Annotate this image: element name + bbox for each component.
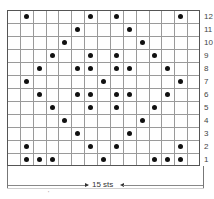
row-label: 12 xyxy=(204,13,213,21)
dot-symbol xyxy=(127,27,132,32)
dot-symbol xyxy=(24,79,29,84)
dot-symbol xyxy=(50,157,55,162)
dot-symbol xyxy=(152,157,157,162)
dot-symbol xyxy=(178,144,183,149)
knitting-chart: 121110987654321 15 sts ' xyxy=(0,0,214,199)
grid-row-line xyxy=(8,140,199,141)
dot-symbol xyxy=(178,14,183,19)
dot-symbol xyxy=(88,92,93,97)
dot-symbol xyxy=(165,66,170,71)
dot-symbol xyxy=(88,144,93,149)
row-label: 1 xyxy=(204,156,208,164)
dot-symbol xyxy=(152,105,157,110)
row-label: 9 xyxy=(204,52,208,60)
row-label: 2 xyxy=(204,143,208,151)
row-label: 5 xyxy=(204,104,208,112)
row-label: 11 xyxy=(204,26,212,34)
dot-symbol xyxy=(178,157,183,162)
dot-symbol xyxy=(88,14,93,19)
row-label: 3 xyxy=(204,130,208,138)
width-arrow-right-line xyxy=(123,185,203,186)
width-arrow-left-line xyxy=(8,185,88,186)
row-label: 8 xyxy=(204,65,208,73)
dot-symbol xyxy=(75,27,80,32)
dot-symbol xyxy=(114,92,119,97)
dot-symbol xyxy=(50,105,55,110)
dot-symbol xyxy=(37,157,42,162)
grid-row-line xyxy=(8,114,199,115)
dot-symbol xyxy=(62,118,67,123)
row-label: 6 xyxy=(204,91,208,99)
dot-symbol xyxy=(101,157,106,162)
row-label: 4 xyxy=(204,117,208,125)
dot-symbol xyxy=(114,66,119,71)
footnote-mark: ' xyxy=(48,190,49,196)
dot-symbol xyxy=(75,66,80,71)
dot-symbol xyxy=(152,53,157,58)
grid-row-line xyxy=(8,49,199,50)
dot-symbol xyxy=(127,66,132,71)
dot-symbol xyxy=(114,144,119,149)
dot-symbol xyxy=(178,79,183,84)
dot-symbol xyxy=(24,157,29,162)
grid-row-line xyxy=(8,23,199,24)
dot-symbol xyxy=(165,157,170,162)
grid-row-line xyxy=(8,127,199,128)
grid-row-line xyxy=(8,62,199,63)
dot-symbol xyxy=(50,53,55,58)
dot-symbol xyxy=(75,131,80,136)
grid-row-line xyxy=(8,36,199,37)
grid-row-line xyxy=(8,88,199,89)
dot-symbol xyxy=(24,144,29,149)
dot-symbol xyxy=(88,66,93,71)
dot-symbol xyxy=(88,105,93,110)
width-label: 15 sts xyxy=(92,180,113,190)
bracket-right xyxy=(203,166,204,188)
dot-symbol xyxy=(114,105,119,110)
chart-grid xyxy=(7,10,200,166)
dot-symbol xyxy=(127,131,132,136)
dot-symbol xyxy=(140,118,145,123)
grid-row-line xyxy=(8,75,199,76)
dot-symbol xyxy=(88,53,93,58)
dot-symbol xyxy=(114,53,119,58)
arrow-right-icon xyxy=(85,183,89,187)
row-label: 7 xyxy=(204,78,208,86)
dot-symbol xyxy=(37,66,42,71)
dot-symbol xyxy=(127,92,132,97)
dot-symbol xyxy=(165,92,170,97)
dot-symbol xyxy=(140,40,145,45)
row-label: 10 xyxy=(204,39,213,47)
dot-symbol xyxy=(101,79,106,84)
dot-symbol xyxy=(114,14,119,19)
grid-row-line xyxy=(8,153,199,154)
dot-symbol xyxy=(37,92,42,97)
dot-symbol xyxy=(62,40,67,45)
dot-symbol xyxy=(24,14,29,19)
dot-symbol xyxy=(75,92,80,97)
grid-row-line xyxy=(8,101,199,102)
